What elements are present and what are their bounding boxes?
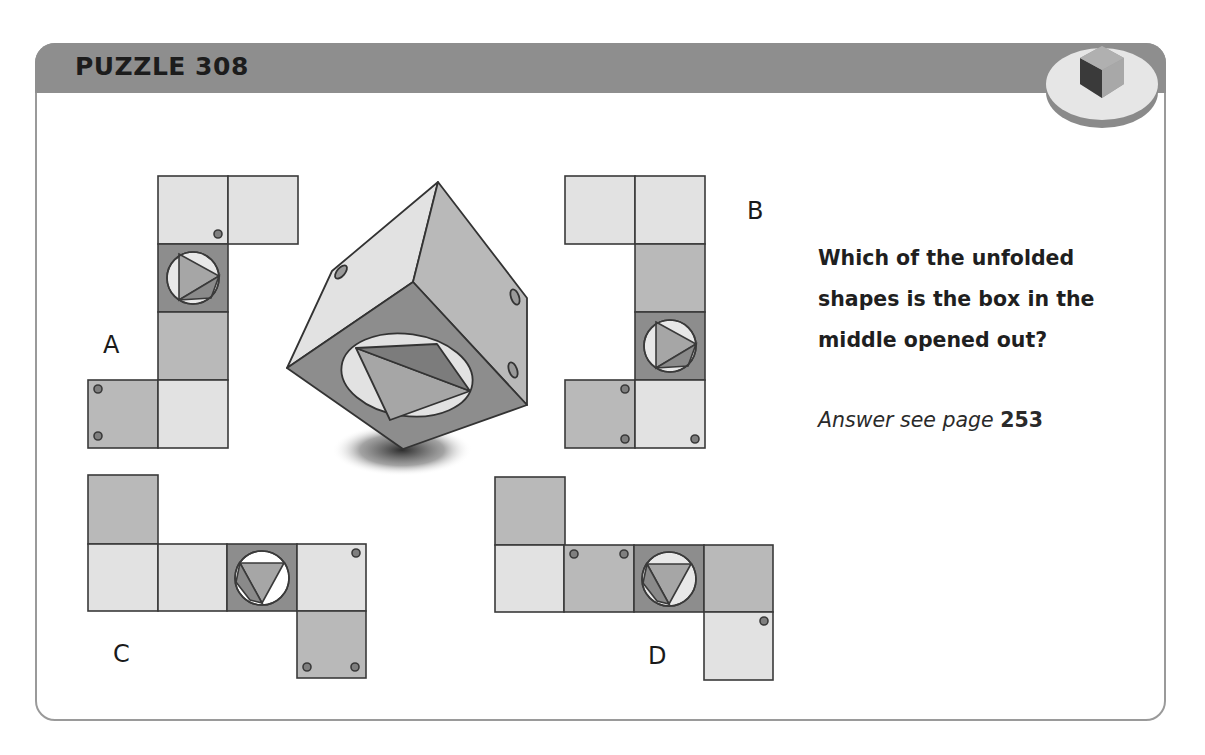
question-line: middle opened out? [818, 320, 1108, 361]
option-label-a: A [103, 331, 119, 359]
option-label-d: D [648, 642, 666, 670]
question-text: Which of the unfolded shapes is the box … [818, 238, 1108, 361]
answer-prefix: Answer see page [818, 408, 994, 432]
net-d[interactable] [495, 477, 773, 680]
option-label-c: C [113, 640, 130, 668]
puzzle-illustration [0, 0, 1205, 755]
center-cube [287, 182, 527, 476]
net-b[interactable] [565, 176, 705, 448]
option-label-b: B [747, 197, 763, 225]
question-line: shapes is the box in the [818, 279, 1108, 320]
answer-page-number: 253 [1000, 408, 1043, 432]
question-line: Which of the unfolded [818, 238, 1108, 279]
answer-reference: Answer see page 253 [818, 408, 1043, 432]
net-a[interactable] [88, 176, 298, 448]
